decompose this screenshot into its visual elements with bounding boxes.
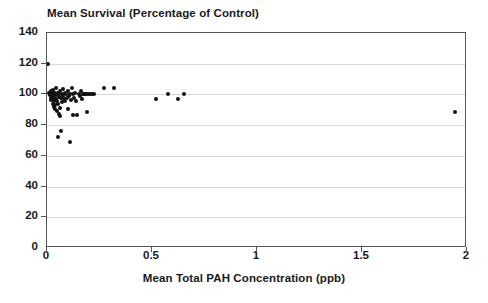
y-tick-mark-100 <box>41 93 46 94</box>
data-point <box>92 92 96 96</box>
x-tick-mark-0-5 <box>151 247 152 252</box>
y-tick-label-100: 100 <box>4 88 38 100</box>
gridline-y-120 <box>47 64 465 65</box>
data-point <box>453 110 457 114</box>
data-point <box>68 140 72 144</box>
x-tick-mark-0 <box>46 247 47 252</box>
x-tick-mark-1-5 <box>361 247 362 252</box>
y-tick-label-140: 140 <box>4 26 38 38</box>
chart-title: Mean Survival (Percentage of Control) <box>47 7 259 19</box>
data-point <box>182 92 186 96</box>
gridline-y-40 <box>47 187 465 188</box>
data-point <box>74 99 78 103</box>
data-point <box>58 114 62 118</box>
data-point <box>80 97 84 101</box>
y-tick-label-60: 60 <box>4 149 38 161</box>
gridline-y-20 <box>47 217 465 218</box>
data-point <box>70 86 74 90</box>
y-tick-label-40: 40 <box>4 180 38 192</box>
data-point <box>59 129 63 133</box>
plot-area <box>46 32 466 247</box>
data-point <box>85 110 89 114</box>
data-point <box>166 92 170 96</box>
chart-figure: Mean Survival (Percentage of Control) 02… <box>0 0 488 303</box>
y-tick-label-20: 20 <box>4 211 38 223</box>
data-point <box>58 106 62 110</box>
x-tick-mark-1 <box>256 247 257 252</box>
data-point <box>71 113 75 117</box>
data-point <box>102 86 106 90</box>
y-tick-mark-60 <box>41 155 46 156</box>
x-tick-mark-2 <box>466 247 467 252</box>
gridline-y-60 <box>47 156 465 157</box>
y-tick-mark-120 <box>41 63 46 64</box>
data-point <box>112 86 116 90</box>
gridline-y-100 <box>47 94 465 95</box>
y-tick-mark-20 <box>41 216 46 217</box>
data-point <box>66 107 70 111</box>
data-point <box>46 62 50 66</box>
x-axis-title: Mean Total PAH Concentration (ppb) <box>0 272 488 284</box>
data-point <box>176 97 180 101</box>
y-tick-label-120: 120 <box>4 57 38 69</box>
y-tick-mark-80 <box>41 124 46 125</box>
y-tick-mark-40 <box>41 186 46 187</box>
gridline-y-80 <box>47 125 465 126</box>
y-tick-label-80: 80 <box>4 118 38 130</box>
data-point <box>154 97 158 101</box>
data-point <box>75 113 79 117</box>
data-point <box>56 135 60 139</box>
